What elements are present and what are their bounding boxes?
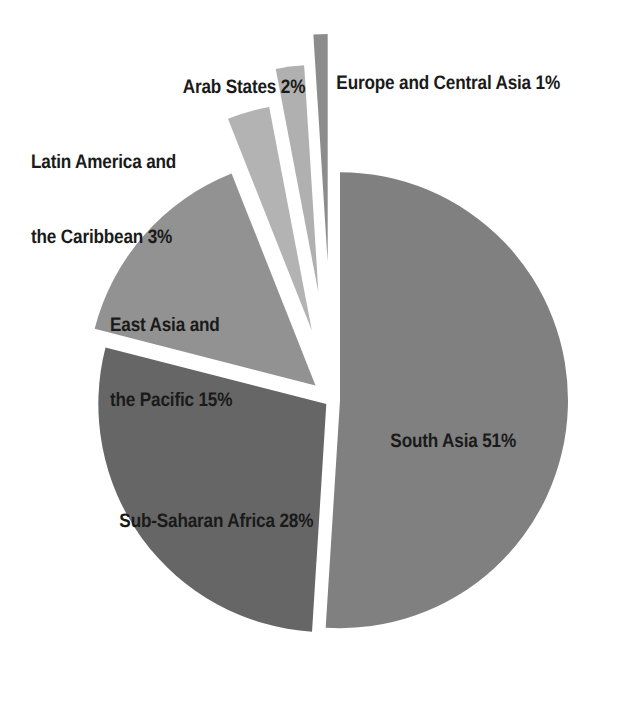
slice-label-europe-and-central-asia: Europe and Central Asia 1% [318,46,560,121]
slice-label-line-2: the Pacific 15% [110,388,232,413]
slice-label-south-asia: South Asia 51% [372,404,516,479]
slice-label-text: Sub-Saharan Africa 28% [119,510,313,532]
slice-label-east-asia-and-the-pacific: East Asia and the Pacific 15% [110,263,232,463]
slice-label-sub-saharan-africa: Sub-Saharan Africa 28% [101,484,313,559]
slice-label-text: Europe and Central Asia 1% [336,72,560,94]
slice-label-line-1: East Asia and [110,313,232,338]
slice-label-text: South Asia 51% [390,430,516,452]
pie-slice-south-asia[interactable] [326,172,568,628]
slice-label-text: Arab States 2% [183,76,305,98]
pie-chart: Europe and Central Asia 1% Arab States 2… [0,0,625,728]
slice-label-line-1: Latin America and [31,150,176,175]
slice-label-line-2: the Caribbean 3% [31,225,176,250]
slice-label-arab-states: Arab States 2% [165,50,305,125]
